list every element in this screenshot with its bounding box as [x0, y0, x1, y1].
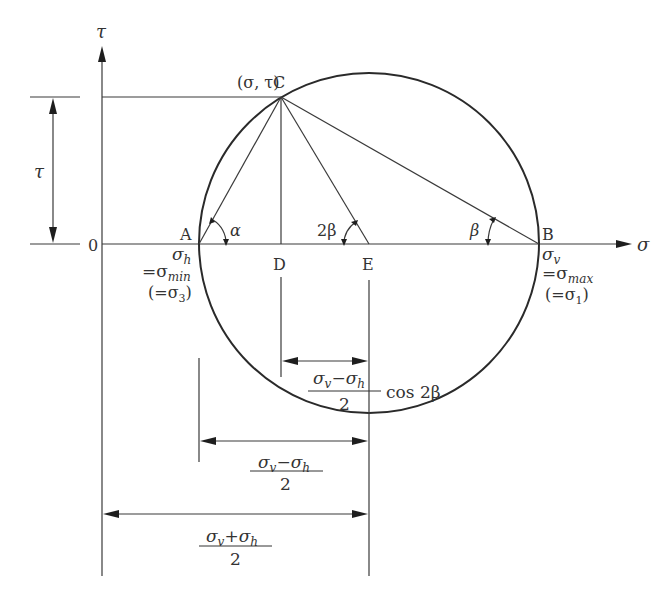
beta-label: β — [469, 221, 479, 240]
center-dim-arrow-left — [103, 510, 119, 518]
de-dim-cos-term: cos 2β — [386, 382, 441, 402]
point-d-label: D — [273, 255, 286, 274]
radius-dim-arrow-right — [352, 437, 368, 445]
point-b-stress-labels: σv =σmax (=σ1) — [542, 244, 593, 307]
sigma-axis-label: σ — [637, 234, 650, 255]
sigma-3-label: (=σ3) — [148, 283, 192, 305]
beta-arc-arrow-base — [485, 239, 491, 246]
de-dim-arrow-right — [352, 357, 368, 365]
radius-dim-denominator: 2 — [280, 474, 291, 494]
two-beta-arc-arrow-base — [341, 239, 347, 246]
tau-dimension: τ — [30, 97, 80, 244]
sigma-max-label: =σmax — [542, 263, 593, 286]
center-dim-denominator: 2 — [230, 549, 241, 569]
sigma-1-label: (=σ1) — [545, 285, 589, 307]
point-b-label: B — [542, 225, 554, 244]
de-dim-arrow-left — [282, 357, 298, 365]
sigma-axis-arrowhead — [616, 240, 632, 248]
alpha-arc-arrow-base — [223, 239, 229, 246]
point-c-label: C — [273, 73, 285, 92]
de-dim-denominator: 2 — [339, 394, 350, 414]
point-a-stress-labels: σh =σmin (=σ3) — [142, 244, 192, 305]
two-beta-label: 2β — [317, 221, 336, 240]
tau-axis-label: τ — [96, 21, 107, 42]
radius-dim-numerator: σv−σh — [258, 452, 310, 475]
point-a-label: A — [179, 225, 192, 244]
point-e-label: E — [362, 255, 374, 274]
center-dimension: σv+σh 2 — [103, 510, 368, 569]
tau-dim-label: τ — [34, 161, 45, 182]
mohr-circle-diagram: τ σ 0 (σ, τ) C A B D E α 2β β σh =σmin (… — [0, 0, 667, 601]
radius-dim-arrow-left — [200, 437, 216, 445]
center-dim-arrow-right — [352, 510, 368, 518]
tau-axis-arrowhead — [98, 46, 106, 62]
tau-dim-arrow-down — [49, 227, 57, 243]
de-dim-numerator: σv−σh — [313, 368, 365, 391]
tau-dim-arrow-up — [49, 98, 57, 114]
radius-dimension: σv−σh 2 — [200, 437, 368, 494]
alpha-label: α — [230, 221, 241, 240]
sigma-h-label: σh — [172, 244, 191, 267]
origin-label: 0 — [88, 236, 98, 255]
